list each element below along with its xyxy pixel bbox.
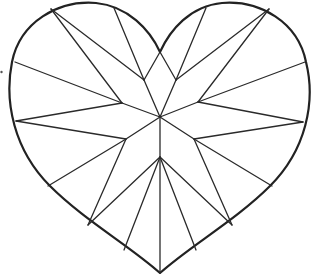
star-facets (15, 8, 305, 273)
stray-dot (0, 71, 2, 73)
heart-star-line-art (0, 0, 314, 274)
